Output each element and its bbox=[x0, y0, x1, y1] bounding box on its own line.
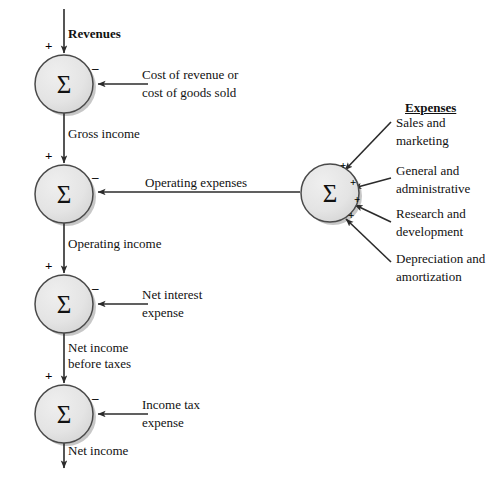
revenues-title: Revenues bbox=[68, 26, 121, 41]
plus-sign-gross-income: + bbox=[45, 151, 52, 161]
plus-sign-sales-and-marketing: + bbox=[340, 160, 346, 170]
sigma-glyph: Σ bbox=[57, 401, 72, 428]
operating-expenses-label: Operating expenses bbox=[145, 175, 247, 190]
income-statement-flow-diagram: Σ Σ Σ Σ Σ Revenues Expenses Cost of reve… bbox=[0, 0, 502, 488]
minus-sign-operating-expenses: – bbox=[92, 172, 99, 182]
depreciation-and-amortization-label-line1: Depreciation and bbox=[396, 251, 485, 266]
depreciation-and-amortization-label-line2: amortization bbox=[396, 269, 462, 284]
income-tax-expense-label-line2: expense bbox=[142, 415, 184, 430]
sigma-glyph: Σ bbox=[323, 180, 338, 207]
plus-sign-revenues: + bbox=[45, 41, 52, 51]
cost-of-revenue-label-line2: cost of goods sold bbox=[142, 85, 236, 100]
gross-income-node: Σ bbox=[35, 55, 93, 113]
depreciation-and-amortization-arrow bbox=[346, 219, 391, 262]
sales-and-marketing-label-line1: Sales and bbox=[396, 115, 445, 130]
income-tax-expense-label-line1: Income tax bbox=[142, 397, 200, 412]
gross-income-label: Gross income bbox=[68, 126, 140, 141]
research-and-development-label-line2: development bbox=[396, 224, 463, 239]
plus-sign-general-and-administrative: + bbox=[350, 177, 356, 187]
sales-and-marketing-arrow bbox=[345, 122, 391, 170]
plus-sign-research-and-development: + bbox=[354, 194, 360, 204]
net-interest-expense-label-line1: Net interest bbox=[142, 287, 202, 302]
minus-sign-cost-of-revenue: – bbox=[92, 63, 99, 73]
sales-and-marketing-label-line2: marketing bbox=[396, 133, 449, 148]
research-and-development-label-line1: Research and bbox=[396, 206, 466, 221]
node-shadows bbox=[38, 58, 362, 446]
sigma-glyph: Σ bbox=[57, 291, 72, 318]
net-income-label: Net income bbox=[68, 443, 128, 458]
net-interest-expense-label-line2: expense bbox=[142, 305, 184, 320]
net-income-node: Σ bbox=[35, 385, 93, 443]
general-and-administrative-label-line1: General and bbox=[396, 163, 459, 178]
general-and-administrative-arrow bbox=[354, 178, 391, 188]
minus-sign-income-tax-expense: – bbox=[92, 393, 99, 403]
pretax-income-node: Σ bbox=[35, 275, 93, 333]
minus-sign-net-interest-expense: – bbox=[92, 283, 99, 293]
cost-of-revenue-label-line1: Cost of revenue or bbox=[142, 67, 238, 82]
operating-income-node: Σ bbox=[35, 165, 93, 223]
plus-sign-operating-income: + bbox=[45, 261, 52, 271]
sigma-glyph: Σ bbox=[57, 181, 72, 208]
general-and-administrative-label-line2: administrative bbox=[396, 181, 470, 196]
research-and-development-arrow bbox=[355, 205, 391, 222]
expenses-title: Expenses bbox=[405, 100, 456, 115]
plus-sign-depreciation-and-amortization: + bbox=[348, 210, 354, 220]
plus-sign-pretax-income: + bbox=[45, 371, 52, 381]
operating-income-label: Operating income bbox=[68, 236, 162, 251]
net-income-before-taxes-label-line1: Net income bbox=[68, 340, 128, 355]
net-income-before-taxes-label-line2: before taxes bbox=[68, 356, 131, 371]
sigma-glyph: Σ bbox=[57, 71, 72, 98]
